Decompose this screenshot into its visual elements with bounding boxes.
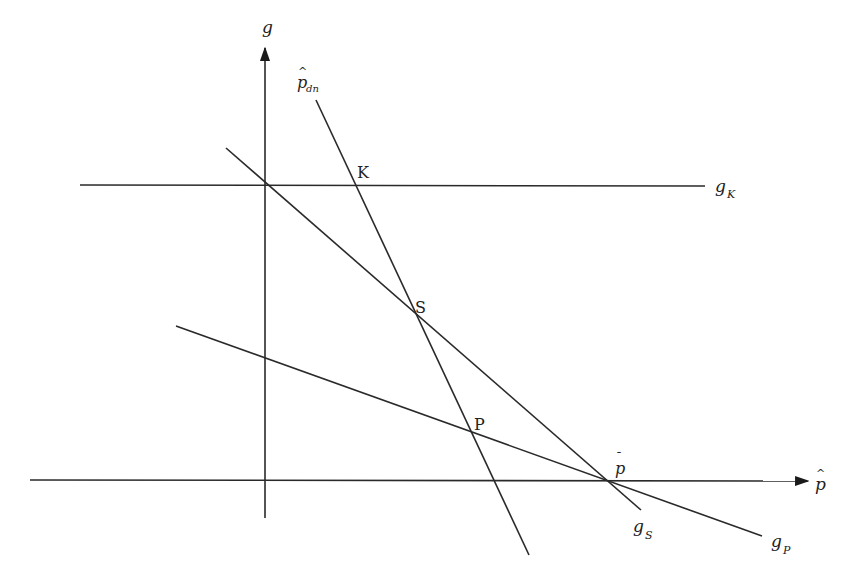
svg-text:P: P (782, 544, 791, 557)
svg-text:g: g (715, 176, 726, 196)
point-p-label: P (474, 415, 485, 434)
g-axis-label: g (262, 17, 273, 37)
svg-text:g: g (633, 516, 644, 536)
svg-text:¯: ¯ (616, 451, 622, 465)
g-k-label: g K (715, 176, 736, 201)
point-p-bar-label: p ¯ (615, 451, 625, 478)
g-p-line (176, 326, 762, 536)
point-s-label: S (415, 298, 426, 317)
g-k-line (80, 185, 705, 186)
svg-text:K: K (726, 188, 736, 201)
p-dn-label: p ^ dn (297, 65, 319, 94)
g-s-label: g S (633, 516, 653, 542)
p-hat-axis (30, 480, 808, 481)
svg-text:^: ^ (816, 467, 825, 480)
svg-text:^: ^ (298, 65, 307, 78)
svg-text:S: S (645, 529, 653, 542)
point-k-label: K (357, 163, 370, 182)
p-dn-line (316, 100, 529, 555)
g-p-label: g P (771, 531, 791, 557)
diagram-canvas: g p ^ g K p ^ dn g S g P K S P p ¯ (0, 0, 845, 574)
svg-text:dn: dn (306, 83, 319, 94)
svg-text:g: g (771, 531, 782, 551)
g-s-line (226, 148, 641, 510)
p-hat-axis-label: p ^ (815, 467, 826, 494)
